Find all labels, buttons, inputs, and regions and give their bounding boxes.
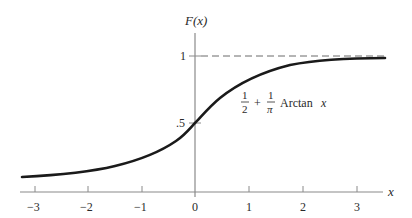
x-axis-label: x: [387, 184, 394, 199]
formula-pi-numerator: 1: [268, 89, 274, 101]
formula-half-denominator: 2: [242, 103, 248, 115]
formula-annotation: 1 2 + 1 π Arctan x: [241, 89, 327, 115]
formula-plus: +: [254, 96, 261, 110]
formula-arctan: Arctan: [280, 96, 313, 110]
arctan-cdf-chart: F(x) 1 .5 x −3 −2 −1 0 1 2 3 1 2 + 1 π A…: [0, 0, 412, 218]
formula-variable: x: [320, 96, 327, 110]
x-tick-label: −2: [80, 200, 93, 214]
arctan-curve: [22, 58, 385, 177]
x-ticks: [35, 186, 357, 192]
x-tick-label: −1: [134, 200, 147, 214]
chart-canvas: F(x) 1 .5 x −3 −2 −1 0 1 2 3 1 2 + 1 π A…: [0, 0, 412, 218]
x-tick-label: 1: [246, 200, 252, 214]
y-tick-label-1: 1: [180, 49, 186, 63]
y-axis-label: F(x): [184, 13, 207, 28]
y-tick-label-half: .5: [176, 116, 185, 130]
formula-pi-denominator: π: [267, 103, 273, 115]
x-tick-label: −3: [27, 200, 40, 214]
x-tick-label: 0: [192, 200, 198, 214]
formula-half-numerator: 1: [242, 89, 248, 101]
x-tick-label: 2: [300, 200, 306, 214]
x-tick-label: 3: [354, 200, 360, 214]
